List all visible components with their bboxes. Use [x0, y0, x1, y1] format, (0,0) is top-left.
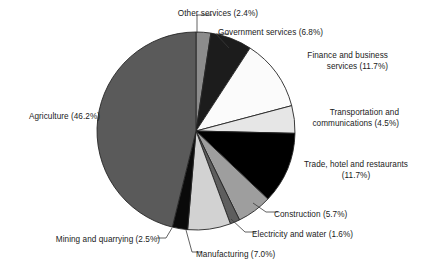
- pie-slice-group: [97, 32, 295, 230]
- slice-label-electricity-and-water: Electricity and water (1.6%): [252, 229, 412, 240]
- pie-chart-figure: Other services (2.4%) Government service…: [0, 0, 424, 270]
- leader-line-mining-and-quarrying: [166, 228, 172, 238]
- slice-label-text-line2: (11.7%): [290, 170, 422, 181]
- slice-label-finance-and-business-services: Finance and business services (11.7%): [268, 50, 388, 72]
- slice-label-text: Other services (2.4%): [138, 8, 258, 19]
- slice-label-text: Agriculture (46.2%): [0, 111, 100, 122]
- slice-label-construction: Construction (5.7%): [274, 209, 414, 220]
- slice-label-manufacturing: Manufacturing (7.0%): [196, 249, 346, 260]
- slice-label-text-line2: communications (4.5%): [285, 118, 399, 129]
- slice-label-text-line2: services (11.7%): [268, 61, 388, 72]
- slice-label-text-line1: Transportation and: [285, 107, 399, 118]
- slice-label-text: Mining and quarrying (2.5%): [20, 234, 160, 245]
- slice-label-transportation-and-communications: Transportation and communications (4.5%): [285, 107, 399, 129]
- slice-label-text: Manufacturing (7.0%): [196, 249, 346, 260]
- slice-label-text-line1: Finance and business: [268, 50, 388, 61]
- slice-label-text: Electricity and water (1.6%): [252, 229, 412, 240]
- slice-label-text-line1: Trade, hotel and restaurants: [290, 159, 422, 170]
- slice-label-text: Construction (5.7%): [274, 209, 414, 220]
- slice-label-mining-and-quarrying: Mining and quarrying (2.5%): [20, 234, 160, 245]
- leader-line-manufacturing: [186, 230, 192, 252]
- slice-label-text: Government services (6.8%): [218, 27, 408, 38]
- slice-label-trade-hotel-and-restaurants: Trade, hotel and restaurants (11.7%): [290, 159, 422, 181]
- slice-label-government-services: Government services (6.8%): [218, 27, 408, 38]
- slice-label-agriculture: Agriculture (46.2%): [0, 111, 100, 122]
- slice-label-other-services: Other services (2.4%): [138, 8, 258, 19]
